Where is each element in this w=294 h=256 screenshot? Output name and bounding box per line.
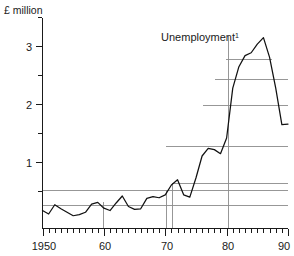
x-tick-label-1950: 1950	[32, 240, 56, 252]
x-tick-label-1960: 60	[99, 240, 111, 252]
unemployment-series-line	[43, 38, 289, 216]
chart-canvas: £ million	[0, 0, 294, 256]
series-annotation-text: Unemployment	[161, 31, 235, 43]
y-axis-tick-labels: 3 2 1	[26, 41, 32, 169]
y-tick-label-3: 3	[26, 41, 32, 53]
y-tick-label-1: 1	[26, 157, 32, 169]
y-axis-major-ticks	[36, 47, 42, 163]
x-tick-label-1980: 80	[222, 240, 234, 252]
x-axis-tick-labels: 1950 60 70 80 90	[32, 240, 290, 252]
x-tick-label-1970: 70	[161, 240, 173, 252]
y-axis-unit-label: £ million	[4, 4, 43, 16]
unemployment-line-chart: £ million	[0, 0, 294, 256]
series-annotation-label: Unemployment1	[161, 31, 239, 43]
series-annotation-superscript: 1	[235, 32, 239, 39]
y-tick-label-2: 2	[26, 99, 32, 111]
reference-lines	[42, 36, 288, 228]
x-tick-label-1990: 90	[278, 240, 290, 252]
